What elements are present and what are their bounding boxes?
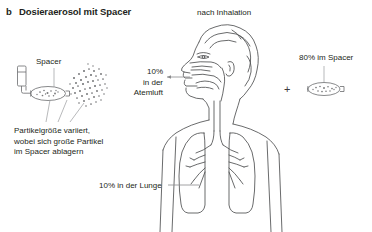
lung-deposit-label: 10% in der Lunge — [99, 181, 162, 192]
spacer-deposit-label: 80% im Spacer — [299, 53, 353, 64]
breath-air-label: 10% in der Atemluft — [113, 67, 163, 99]
inhaler-canister-icon — [18, 66, 27, 86]
plus-separator: + — [284, 84, 290, 95]
inhaler-deposition-diagram — [0, 0, 372, 232]
aerosol-particle-cloud — [69, 63, 107, 106]
spacer-inner-particles — [36, 90, 58, 97]
spacer-device-group — [18, 66, 70, 101]
particle-size-caption: Partikelgröße variiert, wobei sich große… — [14, 126, 103, 158]
head-figure — [181, 25, 258, 131]
torso-figure — [160, 120, 282, 232]
page-title: Dosieraerosol mit Spacer — [19, 7, 131, 18]
lungs-figure — [179, 131, 255, 213]
spacer-deposit-particles — [312, 86, 336, 93]
panel-letter: b — [6, 7, 12, 18]
spacer-label: Spacer — [36, 57, 61, 68]
after-inhalation-label: nach Inhalation — [197, 8, 251, 19]
